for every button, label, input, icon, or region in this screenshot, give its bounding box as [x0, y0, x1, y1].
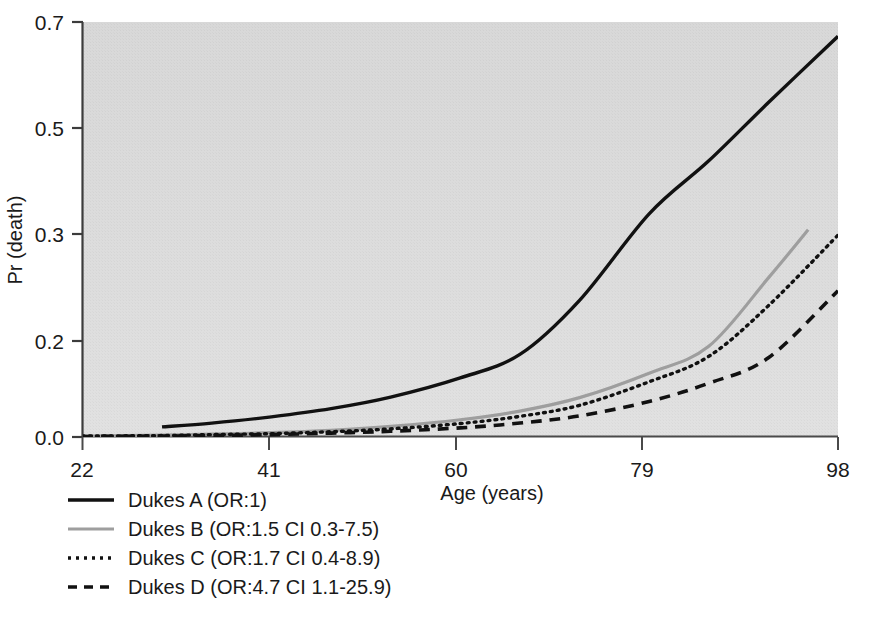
- x-axis-title: Age (years): [440, 482, 543, 504]
- x-axis-tick-labels: 22 41 60 79 98: [70, 458, 849, 481]
- y-axis-title: Pr (death): [4, 196, 26, 285]
- legend-item-label: Dukes D (OR:4.7 CI 1.1-25.9): [128, 576, 391, 598]
- legend-item[interactable]: Dukes C (OR:1.7 CI 0.4-8.9): [68, 547, 380, 569]
- chart-legend: Dukes A (OR:1)Dukes B (OR:1.5 CI 0.3-7.5…: [68, 489, 391, 598]
- x-tick-label-4: 98: [826, 458, 849, 481]
- y-tick-label-4: 0.0: [35, 426, 64, 449]
- y-tick-label-0: 0.7: [35, 11, 64, 34]
- survival-probability-line-chart: 0.7 0.5 0.3 0.2 0.0 22 41 60 79 98 Pr (d…: [0, 0, 869, 617]
- y-tick-label-1: 0.5: [35, 117, 64, 140]
- y-tick-label-3: 0.2: [35, 330, 64, 353]
- y-axis-ticks: [72, 22, 83, 437]
- y-tick-label-2: 0.3: [35, 223, 64, 246]
- x-axis-ticks: [83, 437, 839, 450]
- legend-item-label: Dukes B (OR:1.5 CI 0.3-7.5): [128, 518, 379, 540]
- legend-item-label: Dukes C (OR:1.7 CI 0.4-8.9): [128, 547, 380, 569]
- legend-item[interactable]: Dukes A (OR:1): [68, 489, 267, 511]
- legend-item[interactable]: Dukes B (OR:1.5 CI 0.3-7.5): [68, 518, 379, 540]
- legend-item-label: Dukes A (OR:1): [128, 489, 267, 511]
- legend-item[interactable]: Dukes D (OR:4.7 CI 1.1-25.9): [68, 576, 391, 598]
- x-tick-label-2: 60: [444, 458, 467, 481]
- plot-panel: [83, 22, 838, 437]
- x-tick-label-0: 22: [70, 458, 93, 481]
- x-tick-label-3: 79: [630, 458, 653, 481]
- y-axis-tick-labels: 0.7 0.5 0.3 0.2 0.0: [35, 11, 64, 449]
- chart-figure: 0.7 0.5 0.3 0.2 0.0 22 41 60 79 98 Pr (d…: [0, 0, 869, 617]
- x-tick-label-1: 41: [257, 458, 280, 481]
